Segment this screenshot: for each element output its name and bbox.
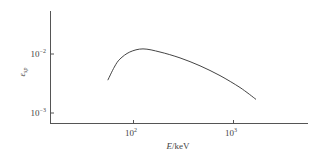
x-tick-label-1e2: 102 bbox=[125, 127, 137, 138]
x-axis-label: E/keV bbox=[166, 141, 190, 151]
y-tick-label-1e-3: 10−3 bbox=[31, 107, 46, 118]
x-tick-label-1e3: 103 bbox=[225, 127, 237, 138]
y-axis-label: εsp bbox=[17, 68, 28, 77]
data-curve bbox=[108, 49, 256, 100]
y-tick-label-1e-2: 10−2 bbox=[31, 48, 46, 59]
chart: 10−2 10−3 102 103 E/keV εsp bbox=[0, 0, 322, 158]
